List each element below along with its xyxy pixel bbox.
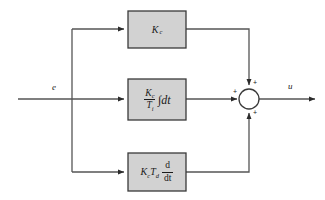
- integral-operator: ∫dt: [158, 94, 171, 106]
- wire-derivative-to-sum: [186, 113, 249, 172]
- sum-sign-top: +: [253, 79, 257, 86]
- output-signal-label: u: [288, 82, 293, 91]
- proportional-block-label: Kc: [128, 11, 186, 48]
- sum-sign-left: +: [233, 88, 237, 95]
- proportional-gain-subscript: c: [159, 29, 162, 36]
- derivative-block-label: KcTd d dt: [128, 153, 186, 191]
- sum-sign-bottom: +: [253, 109, 257, 116]
- derivative-operator-numerator: d: [163, 161, 172, 172]
- pid-block-diagram: e u + + + Kc Kc Ti ∫dt KcTd d dt: [0, 0, 325, 200]
- wire-proportional-to-sum: [186, 29, 249, 85]
- integral-block-label: Kc Ti ∫dt: [128, 79, 186, 120]
- derivative-operator-denominator: dt: [162, 172, 173, 184]
- integral-fraction-denominator: Ti: [144, 99, 155, 111]
- proportional-gain-symbol: K: [152, 25, 159, 35]
- derivative-gain-group: KcTd: [141, 167, 159, 177]
- derivative-operator-fraction: d dt: [162, 161, 173, 183]
- integral-fraction-numerator: Kc: [143, 89, 156, 100]
- integral-gain-fraction: Kc Ti: [143, 89, 156, 111]
- input-signal-label: e: [52, 83, 56, 92]
- summing-junction-circle: [239, 89, 259, 109]
